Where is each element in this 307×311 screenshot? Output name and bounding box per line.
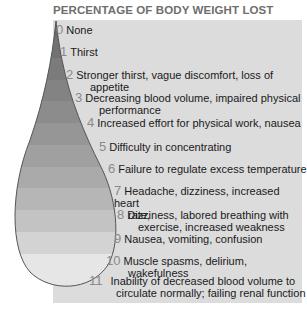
list-item-4: 4Increased effort for physical work, nau…: [87, 117, 301, 129]
item-number: 5: [99, 139, 106, 154]
item-text: Stronger thirst, vague discomfort, loss …: [76, 69, 273, 81]
item-text: Difficulty in concentrating: [109, 141, 231, 153]
item-number: 0: [56, 22, 63, 37]
list-item-6: 6Failure to regulate excess temperature: [108, 163, 307, 175]
item-text: Inability of decreased blood volume to: [111, 275, 296, 287]
item-text-continued: performance: [75, 104, 300, 116]
item-number: 6: [108, 161, 115, 176]
list-item-0: 0None: [56, 24, 93, 36]
item-number: 8: [117, 207, 124, 222]
item-number: 4: [87, 115, 94, 130]
item-number: 7: [114, 183, 121, 198]
list-item-11: 11Inability of decreased blood volume to…: [89, 275, 306, 299]
item-text: Headache, dizziness, increased heart: [114, 185, 280, 209]
item-text: None: [66, 24, 92, 36]
item-text: Muscle spasms, delirium,: [123, 255, 246, 267]
list-item-5: 5Difficulty in concentrating: [99, 141, 231, 153]
item-text: Increased effort for physical work, naus…: [97, 117, 300, 129]
list-item-2: 2Stronger thirst, vague discomfort, loss…: [66, 69, 273, 93]
item-text: Nausea, vomiting, confusion: [124, 233, 262, 245]
list-item-9: 9Nausea, vomiting, confusion: [114, 233, 262, 245]
list-item-1: 1Thirst: [60, 46, 98, 58]
list-item-8: 8Dizziness, labored breathing with exerc…: [117, 209, 289, 233]
item-number: 11: [89, 273, 103, 288]
list-item-3: 3Decreasing blood volume, impaired physi…: [75, 92, 300, 116]
item-text: Failure to regulate excess temperature: [118, 163, 306, 175]
item-text: Dizziness, labored breathing with: [127, 209, 288, 221]
item-number: 3: [75, 90, 82, 105]
item-number: 9: [114, 231, 121, 246]
item-text-continued: exercise, increased weakness: [117, 221, 289, 233]
item-text: Decreasing blood volume, impaired physic…: [85, 92, 300, 104]
item-number: 2: [66, 67, 73, 82]
item-text-continued: circulate normally; failing renal functi…: [89, 287, 306, 299]
item-text: Thirst: [70, 46, 98, 58]
item-number: 1: [60, 44, 67, 59]
item-number: 10: [106, 253, 120, 268]
